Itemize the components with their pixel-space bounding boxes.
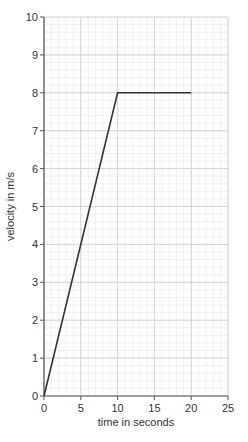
velocity-time-chart: 0510152025 012345678910 time in seconds … — [0, 0, 248, 442]
y-tick-label: 8 — [32, 87, 38, 99]
y-tick-label: 2 — [32, 314, 38, 326]
major-grid — [44, 17, 228, 396]
y-tick-label: 3 — [32, 276, 38, 288]
x-tick-label: 5 — [78, 402, 84, 414]
y-tick-label: 7 — [32, 125, 38, 137]
y-tick-label: 4 — [32, 238, 38, 250]
x-tick-label: 10 — [111, 402, 123, 414]
x-tick-label: 25 — [222, 402, 234, 414]
x-tick-label: 20 — [185, 402, 197, 414]
y-tick-label: 5 — [32, 201, 38, 213]
y-tick-label: 0 — [32, 390, 38, 402]
y-axis-ticks: 012345678910 — [26, 11, 44, 402]
x-axis-ticks: 0510152025 — [41, 396, 234, 414]
y-tick-label: 10 — [26, 11, 38, 23]
x-tick-label: 0 — [41, 402, 47, 414]
x-tick-label: 15 — [148, 402, 160, 414]
y-axis-label: velocity in m/s — [4, 171, 16, 241]
y-tick-label: 1 — [32, 352, 38, 364]
y-tick-label: 9 — [32, 49, 38, 61]
y-tick-label: 6 — [32, 163, 38, 175]
x-axis-label: time in seconds — [98, 416, 175, 428]
